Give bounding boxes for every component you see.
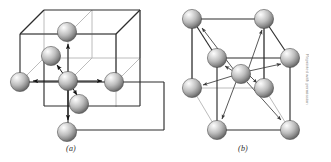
sphere-upper-left (41, 46, 60, 65)
figure-canvas (0, 0, 331, 162)
sphere-back-top-right (254, 9, 273, 28)
arrow-to-back-top-right (248, 30, 262, 70)
panel-a-group (10, 10, 164, 142)
sphere-left (10, 72, 29, 91)
sphere-center (58, 71, 77, 90)
panel-b-group (182, 9, 299, 139)
sphere-top (57, 22, 76, 41)
credit-line: Reprinted with permission (305, 54, 309, 134)
sphere-front-bottom-left (207, 120, 226, 139)
sphere-front-bottom-right (280, 120, 299, 139)
panel-a-spheres (10, 22, 123, 141)
sphere-front-top-left (207, 48, 226, 67)
sphere-bottom (57, 122, 76, 141)
sphere-front-top-right (280, 48, 299, 67)
panel-b-caption: (b) (230, 145, 256, 153)
panel-b-spheres (182, 9, 299, 139)
crystal-coordination-figure: (a) (b) Reprinted with permission (0, 0, 331, 162)
panel-a-back-edges (20, 10, 140, 107)
sphere-right (104, 72, 123, 91)
sphere-lower-front (69, 94, 88, 113)
arrow-to-front-top-right (249, 64, 281, 71)
sphere-back-bottom-right (254, 78, 273, 97)
panel-a-caption: (a) (58, 145, 84, 153)
sphere-back-bottom-left (182, 78, 201, 97)
sphere-back-top-left (182, 9, 201, 28)
sphere-body-center (231, 64, 250, 83)
arrow-to-back-bottom-right (250, 76, 257, 83)
